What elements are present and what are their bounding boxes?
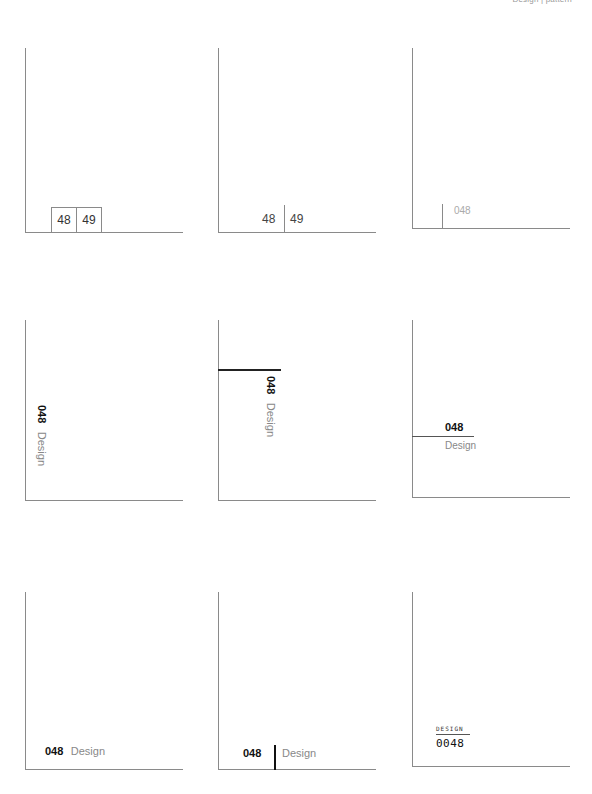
page-number-box-right: 49 [76, 207, 102, 233]
panel-light-marker: 048 [412, 48, 577, 229]
page-number-box-left: 48 [51, 207, 77, 233]
frame-vertical-line [218, 592, 219, 770]
page-number: 048 [45, 745, 63, 757]
panel-digital: DESIGN 0048 [412, 592, 577, 767]
frame-vertical-line [218, 48, 219, 233]
page-number: 048 [445, 421, 463, 433]
page-header: Design | pattern [512, 0, 572, 4]
section-label: Design [71, 745, 105, 757]
frame-baseline [412, 497, 570, 498]
section-label: Design [36, 432, 48, 466]
section-label: Design [282, 747, 316, 759]
panel-inline-with-bar: 048 Design [218, 592, 383, 770]
frame-baseline [412, 228, 570, 229]
panel-inline: 048 Design [25, 592, 190, 770]
frame-vertical-line [218, 320, 219, 501]
panel-vertical-rotated: 048 Design [25, 320, 190, 501]
page-number: 048 [243, 747, 261, 759]
frame-baseline [218, 769, 376, 770]
section-label: Design [445, 440, 476, 451]
rotated-label-group: 048 Design [263, 376, 281, 437]
inline-label-group: 048 Design [45, 741, 105, 759]
frame-vertical-line [25, 48, 26, 233]
frame-vertical-line [25, 320, 26, 501]
section-label: DESIGN [436, 725, 464, 732]
frame-vertical-line [412, 592, 413, 767]
page-divider [284, 205, 285, 233]
section-label: Design [265, 403, 277, 437]
frame-baseline [25, 500, 183, 501]
page-number: 048 [454, 205, 471, 216]
frame-baseline [218, 232, 376, 233]
marker-rule [442, 204, 443, 229]
frame-baseline [412, 766, 570, 767]
top-rule [218, 369, 281, 371]
rotated-label-group: 048 Design [34, 405, 52, 466]
frame-baseline [218, 500, 376, 501]
page-number-left: 48 [262, 212, 275, 226]
panel-stacked-with-rule: 048 Design [412, 320, 577, 498]
panel-divided-pages: 48 49 [218, 48, 383, 233]
middle-rule [412, 436, 474, 437]
vertical-bar [274, 745, 276, 770]
panel-boxed-pages: 48 49 [25, 48, 190, 233]
label-underline [436, 734, 470, 735]
frame-vertical-line [25, 592, 26, 770]
frame-baseline [25, 232, 183, 233]
frame-vertical-line [412, 320, 413, 498]
page-number-right: 49 [290, 212, 303, 226]
frame-vertical-line [412, 48, 413, 229]
page-number: 0048 [436, 737, 465, 750]
frame-baseline [25, 769, 183, 770]
page-number: 048 [36, 405, 48, 423]
page-number: 048 [265, 376, 277, 394]
panel-vertical-with-rule: 048 Design [218, 320, 383, 501]
